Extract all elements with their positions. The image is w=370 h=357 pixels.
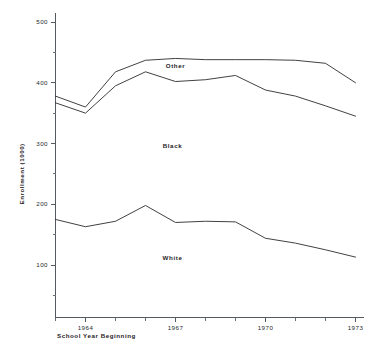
x-axis-tick-label: 1964 bbox=[78, 324, 94, 331]
chart-series-labels: OtherBlackWhite bbox=[163, 62, 186, 261]
y-axis-tick-label: 300 bbox=[36, 140, 48, 147]
series-label-white: White bbox=[163, 254, 183, 261]
y-axis-tick-label: 500 bbox=[36, 18, 48, 25]
x-axis-tick-label: 1967 bbox=[168, 324, 184, 331]
axis-lines bbox=[56, 13, 364, 318]
y-axis-tick-label: 200 bbox=[36, 200, 48, 207]
y-axis-title: Enrollment (1000) bbox=[18, 143, 25, 204]
y-axis-tick-label: 100 bbox=[36, 261, 48, 268]
chart-canvas: 1002003004005001964196719701973 OtherBla… bbox=[0, 0, 370, 357]
series-line-white bbox=[56, 205, 356, 257]
series-line-black bbox=[56, 72, 356, 116]
chart-series-lines bbox=[56, 58, 356, 257]
x-axis-tick-label: 1970 bbox=[258, 324, 274, 331]
chart-axis-titles: School Year BeginningEnrollment (1000) bbox=[18, 143, 136, 339]
enrollment-line-chart: 1002003004005001964196719701973 OtherBla… bbox=[0, 0, 370, 357]
chart-tick-labels: 1002003004005001964196719701973 bbox=[36, 18, 363, 330]
chart-axes bbox=[56, 13, 364, 318]
y-axis-tick-label: 400 bbox=[36, 79, 48, 86]
series-label-black: Black bbox=[163, 142, 183, 149]
x-axis-tick-label: 1973 bbox=[348, 324, 364, 331]
x-axis-title: School Year Beginning bbox=[57, 332, 136, 339]
chart-ticks bbox=[51, 22, 356, 322]
series-label-other: Other bbox=[166, 62, 186, 69]
